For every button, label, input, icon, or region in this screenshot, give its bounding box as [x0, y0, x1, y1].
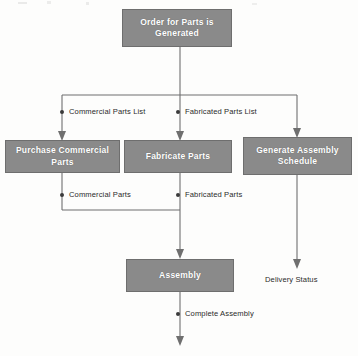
bullet-dot-fabricated-parts	[176, 193, 180, 197]
bullet-dot-fabricated-parts-list	[176, 110, 180, 114]
arrowhead-delivery-status	[293, 259, 301, 269]
flow-label-fabricated-parts: Fabricated Parts	[185, 190, 242, 199]
node-label: Assembly	[159, 270, 201, 281]
flowchart-canvas: Order for Parts is Generated Purchase Co…	[0, 0, 358, 356]
node-generate-assembly-schedule[interactable]: Generate Assembly Schedule	[243, 137, 352, 175]
arrowhead-complete-assembly	[176, 336, 184, 346]
flow-label-fabricated-parts-list: Fabricated Parts List	[185, 107, 257, 116]
flow-label-complete-assembly: Complete Assembly	[185, 309, 254, 318]
node-label: Purchase Commercial Parts	[10, 145, 115, 168]
node-assembly[interactable]: Assembly	[126, 259, 234, 292]
node-fabricate-parts[interactable]: Fabricate Parts	[124, 140, 232, 173]
bullet-dot-complete-assembly	[176, 312, 180, 316]
flow-label-commercial-parts-list: Commercial Parts List	[69, 107, 145, 116]
node-label: Order for Parts is Generated	[127, 17, 227, 40]
flow-label-commercial-parts: Commercial Parts	[69, 190, 131, 199]
connector-layer	[0, 0, 358, 356]
node-purchase-commercial-parts[interactable]: Purchase Commercial Parts	[5, 140, 120, 173]
node-label: Generate Assembly Schedule	[248, 145, 347, 168]
node-label: Fabricate Parts	[146, 151, 210, 162]
node-order-for-parts[interactable]: Order for Parts is Generated	[122, 9, 232, 47]
terminal-label-delivery-status: Delivery Status	[265, 275, 318, 284]
arrowhead-to-assembly	[176, 249, 184, 259]
bullet-dot-commercial-parts	[60, 193, 64, 197]
bullet-dot-commercial-parts-list	[60, 110, 64, 114]
